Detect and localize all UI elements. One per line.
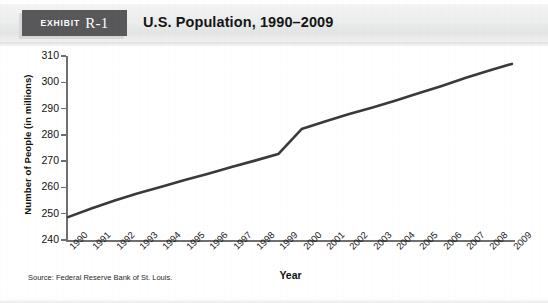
exhibit-badge-word: Exhibit (40, 18, 80, 28)
exhibit-badge-number: R-1 (85, 15, 108, 32)
plot-area: 240250260270280290300310 199019911992199… (66, 56, 515, 240)
page-bottom-edge (0, 299, 548, 303)
y-tick-label: 240 (21, 233, 59, 245)
y-tick-label: 250 (21, 207, 59, 219)
y-tick-label: 260 (21, 180, 59, 192)
page-title: U.S. Population, 1990–2009 (143, 14, 333, 30)
y-tick-label: 300 (21, 75, 59, 87)
y-tick-label: 280 (21, 128, 59, 140)
y-tick-label: 290 (21, 102, 59, 114)
chart-container: Number of People (in millions) 240250260… (0, 47, 548, 303)
y-tick-label: 270 (21, 154, 59, 166)
y-tick-label: 310 (21, 49, 59, 61)
population-line-series (66, 56, 515, 240)
source-note: Source: Federal Reserve Bank of St. Loui… (28, 273, 172, 282)
exhibit-badge: Exhibit R-1 (22, 10, 127, 36)
